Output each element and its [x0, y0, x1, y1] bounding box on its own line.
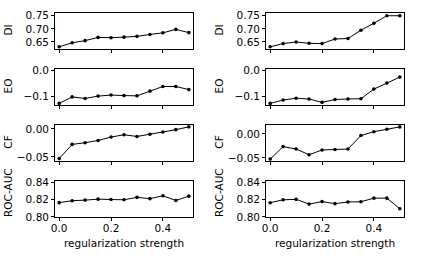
y-tick-mark — [262, 133, 265, 134]
data-point-marker — [346, 147, 350, 151]
y-tick-label: −0.1 — [200, 90, 260, 102]
data-point-marker — [161, 194, 165, 198]
x-tick-label: 0.0 — [51, 222, 68, 234]
data-point-marker — [83, 39, 87, 43]
data-point-marker — [70, 41, 74, 45]
x-tick-mark — [270, 218, 271, 221]
data-point-marker — [122, 198, 126, 202]
data-point-marker — [174, 199, 178, 203]
y-tick-label: 0.70 — [200, 23, 260, 35]
panel-left-cf: −0.050.00CF — [54, 124, 194, 162]
y-tick-mark — [51, 199, 54, 200]
panel-left-eo: −0.10.0EO — [54, 68, 194, 106]
data-point-marker — [385, 127, 389, 131]
y-axis-label: ROC-AUC — [213, 179, 225, 217]
data-point-marker — [281, 98, 285, 102]
y-tick-mark — [262, 41, 265, 42]
x-tick-mark — [373, 106, 374, 109]
data-point-marker — [135, 94, 139, 98]
panel-left-di: 0.650.700.75DI — [54, 12, 194, 50]
y-axis-label: ROC-AUC — [2, 179, 14, 217]
data-point-marker — [122, 94, 126, 98]
y-tick-mark — [51, 41, 54, 42]
panel-right-cf: −0.050.00CF — [265, 124, 405, 162]
data-point-marker — [135, 35, 139, 39]
data-point-marker — [307, 97, 311, 101]
data-point-marker — [333, 98, 337, 102]
data-point-marker — [174, 28, 178, 32]
series-plot — [265, 124, 405, 162]
x-tick-mark — [373, 218, 374, 221]
x-tick-mark — [162, 162, 163, 165]
series-plot — [54, 180, 194, 218]
x-tick-mark — [322, 162, 323, 165]
y-tick-label: −0.05 — [200, 152, 260, 164]
data-point-marker — [57, 45, 61, 49]
data-point-marker — [70, 143, 74, 147]
x-tick-mark — [59, 162, 60, 165]
x-tick-label: 0.2 — [103, 222, 120, 234]
y-tick-label: 0.00 — [200, 128, 260, 140]
data-point-marker — [83, 141, 87, 145]
y-tick-mark — [262, 216, 265, 217]
chart-column-left: 0.650.700.75DI−0.10.0EO−0.050.00CF0.800.… — [0, 0, 211, 268]
series-plot — [54, 12, 194, 50]
data-point-marker — [398, 14, 402, 18]
series-line — [59, 127, 189, 159]
y-tick-mark — [51, 96, 54, 97]
series-line — [270, 127, 400, 159]
data-point-marker — [161, 31, 165, 35]
data-point-marker — [307, 42, 311, 46]
series-plot — [54, 124, 194, 162]
y-tick-label: 0.65 — [200, 36, 260, 48]
x-tick-label: 0.4 — [366, 222, 383, 234]
y-tick-mark — [262, 28, 265, 29]
data-point-marker — [398, 75, 402, 79]
y-tick-mark — [51, 156, 54, 157]
data-point-marker — [320, 42, 324, 46]
data-point-marker — [122, 133, 126, 137]
data-point-marker — [161, 85, 165, 89]
x-tick-mark — [59, 50, 60, 53]
data-point-marker — [122, 35, 126, 39]
x-tick-mark — [373, 50, 374, 53]
data-point-marker — [109, 93, 113, 97]
y-tick-mark — [262, 199, 265, 200]
data-point-marker — [385, 14, 389, 18]
panel-right-roc-auc: 0.800.820.84ROC-AUC0.00.20.4regularizati… — [265, 180, 405, 218]
x-tick-mark — [270, 106, 271, 109]
x-tick-mark — [111, 162, 112, 165]
data-point-marker — [333, 148, 337, 152]
series-plot — [265, 12, 405, 50]
series-line — [270, 16, 400, 47]
data-point-marker — [268, 201, 272, 205]
data-point-marker — [70, 199, 74, 203]
data-point-marker — [294, 147, 298, 151]
data-point-marker — [135, 196, 139, 200]
data-point-marker — [57, 157, 61, 161]
data-point-marker — [294, 40, 298, 44]
y-tick-mark — [262, 70, 265, 71]
data-point-marker — [187, 125, 191, 129]
data-point-marker — [372, 196, 376, 200]
y-tick-mark — [51, 216, 54, 217]
x-tick-mark — [59, 106, 60, 109]
data-point-marker — [320, 148, 324, 152]
panel-right-di: 0.650.700.75DI — [265, 12, 405, 50]
y-axis-label: DI — [2, 11, 14, 49]
y-tick-mark — [51, 70, 54, 71]
data-point-marker — [372, 130, 376, 134]
y-tick-mark — [51, 182, 54, 183]
data-point-marker — [174, 85, 178, 89]
data-point-marker — [372, 21, 376, 25]
data-point-marker — [187, 31, 191, 35]
data-point-marker — [307, 153, 311, 157]
x-tick-mark — [111, 106, 112, 109]
y-tick-label: 0.84 — [200, 176, 260, 188]
data-point-marker — [187, 88, 191, 92]
y-axis-label: EO — [213, 67, 225, 105]
data-point-marker — [83, 198, 87, 202]
data-point-marker — [372, 87, 376, 91]
data-point-marker — [294, 198, 298, 202]
x-tick-label: 0.2 — [314, 222, 331, 234]
